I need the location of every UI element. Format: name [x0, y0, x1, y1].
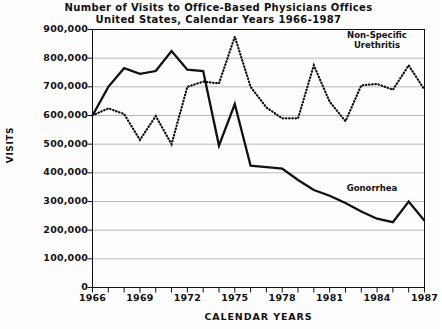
plot-frame [93, 30, 425, 288]
axis-tick-marks [88, 30, 425, 293]
series-label-nsu-line2: Urethritis [354, 40, 400, 50]
series-label-non-specific-urethritis: Non-Specific Urethritis [329, 30, 425, 50]
series-line-non-specific-urethritis [93, 37, 425, 145]
series-label-nsu-line1: Non-Specific [347, 30, 407, 40]
series-label-gonorrhea: Gonorrhea [330, 183, 414, 193]
grid-lines [93, 58, 425, 259]
data-series-layer [93, 37, 425, 222]
